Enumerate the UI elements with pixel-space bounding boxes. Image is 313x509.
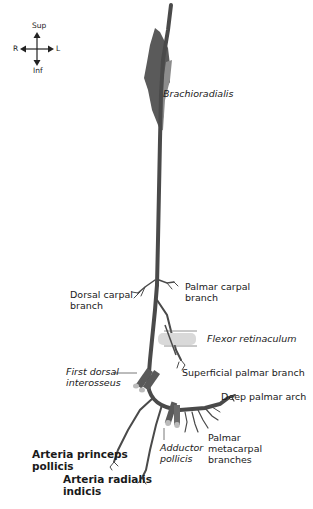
- palmar-carpal-branch-label: Palmar carpal branch: [185, 282, 250, 304]
- compass-superior-label: Sup: [32, 21, 46, 30]
- dorsal-carpal-branch-label: Dorsal carpal branch: [70, 290, 133, 312]
- arteria-princeps-pollicis-label: Arteria princeps pollicis: [32, 448, 128, 472]
- compass-left-label: L: [56, 44, 60, 53]
- first-dorsal-interosseus-muscle: [133, 368, 160, 392]
- brachioradialis-label: Brachioradialis: [163, 89, 233, 100]
- flexor-retinaculum: [158, 325, 197, 355]
- arteria-radialis-indicis-label: Arteria radialis indicis: [63, 473, 152, 497]
- first-dorsal-interosseus-label: First dorsal interosseus: [66, 367, 121, 389]
- deep-palmar-arch-label: Deep palmar arch: [221, 392, 306, 403]
- adductor-pollicis-label: Adductor pollicis: [160, 443, 203, 465]
- compass-right-label: R: [13, 44, 18, 53]
- flexor-retinaculum-label: Flexor retinaculum: [207, 334, 296, 345]
- superficial-palmar-branch-label: Superficial palmar branch: [182, 368, 305, 379]
- compass-inferior-label: Inf: [33, 66, 43, 75]
- orientation-compass-icon: [20, 32, 54, 66]
- radial-artery-diagram: [0, 0, 313, 509]
- brachioradialis-muscle: [144, 28, 172, 131]
- palmar-metacarpal-branches-label: Palmar metacarpal branches: [208, 433, 262, 466]
